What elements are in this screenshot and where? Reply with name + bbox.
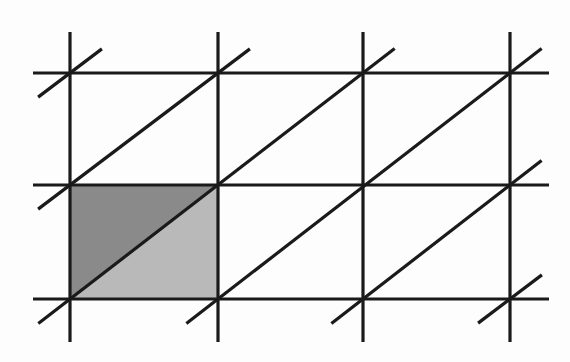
figure-canvas bbox=[0, 0, 570, 362]
lattice-diagram bbox=[0, 0, 570, 362]
